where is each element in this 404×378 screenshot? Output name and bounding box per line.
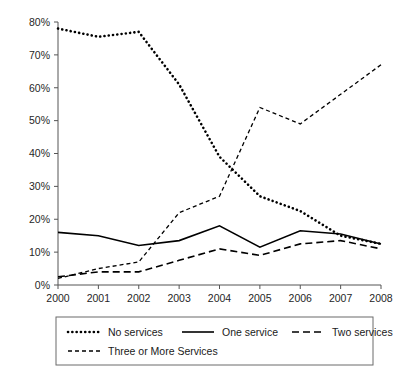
legend-label-no-services: No services xyxy=(108,326,163,338)
series-line-two-services xyxy=(58,241,381,277)
x-axis-tick-label: 2006 xyxy=(289,292,313,304)
y-axis-tick-label: 40% xyxy=(29,147,50,159)
x-axis-tick-label: 2000 xyxy=(46,292,70,304)
y-axis-tick-label: 50% xyxy=(29,114,50,126)
line-chart: 0%10%20%30%40%50%60%70%80% 2000200120022… xyxy=(0,0,404,378)
x-axis-tick-label: 2001 xyxy=(87,292,111,304)
series-line-three-or-more-services xyxy=(58,65,381,279)
y-axis-tick-label: 70% xyxy=(29,49,50,61)
y-axis: 0%10%20%30%40%50%60%70%80% xyxy=(29,16,58,291)
y-axis-tick-label: 0% xyxy=(35,279,50,291)
x-axis-tick-label: 2002 xyxy=(127,292,151,304)
x-axis-tick-label: 2005 xyxy=(248,292,272,304)
legend-label-one-service: One service xyxy=(222,326,278,338)
series-line-no-services xyxy=(58,29,381,244)
x-axis-tick-label: 2007 xyxy=(329,292,353,304)
chart-canvas: 0%10%20%30%40%50%60%70%80% 2000200120022… xyxy=(0,0,404,378)
y-axis-tick-label: 80% xyxy=(29,16,50,28)
y-axis-tick-label: 30% xyxy=(29,180,50,192)
y-axis-tick-label: 60% xyxy=(29,82,50,94)
y-axis-tick-label: 20% xyxy=(29,213,50,225)
series-layer xyxy=(58,29,381,279)
chart-legend: No servicesOne serviceTwo servicesThree … xyxy=(56,317,393,365)
series-line-one-service xyxy=(58,226,381,247)
x-axis-tick-label: 2008 xyxy=(369,292,393,304)
legend-label-three-or-more-services: Three or More Services xyxy=(108,345,218,357)
x-axis-tick-label: 2004 xyxy=(208,292,232,304)
legend-label-two-services: Two services xyxy=(332,326,393,338)
y-axis-tick-label: 10% xyxy=(29,246,50,258)
x-axis-tick-label: 2003 xyxy=(167,292,191,304)
legend-border xyxy=(56,317,373,365)
x-axis: 200020012002200320042005200620072008 xyxy=(46,285,393,304)
